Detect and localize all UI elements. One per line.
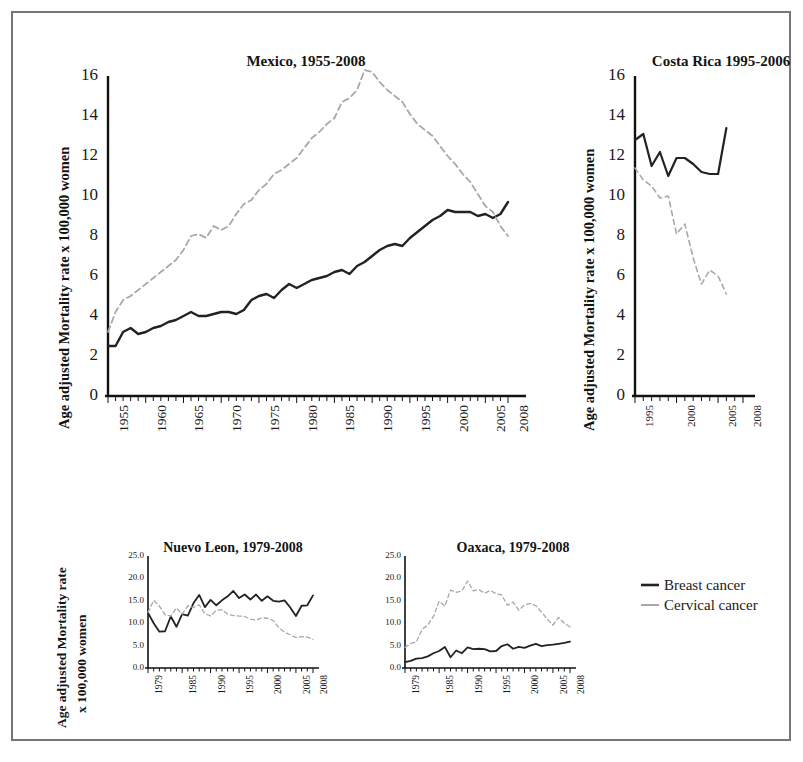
y-tick-label: 16 — [68, 65, 98, 85]
x-tick-label: 1970 — [229, 405, 245, 465]
chart-panel-mexico: Mexico, 1955-2008 Age adjusted Mortality… — [26, 31, 556, 491]
legend-label-cervical-cancer: Cervical cancer — [664, 597, 758, 614]
y-tick-label: 6 — [595, 265, 625, 285]
legend-label-breast-cancer: Breast cancer — [664, 577, 745, 594]
y-tick-label: 12 — [68, 145, 98, 165]
chart-title-oaxaca: Oaxaca, 1979-2008 — [418, 540, 608, 556]
y-tick-label: 25.0 — [116, 550, 144, 560]
x-tick-label: 1980 — [305, 405, 321, 465]
dashed-line-swatch-icon — [641, 600, 659, 610]
x-tick-label: 1990 — [474, 675, 484, 719]
x-tick-label: 2000 — [685, 405, 697, 460]
y-tick-label: 4 — [595, 305, 625, 325]
chart-panel-nuevo-leon: Nuevo Leon, 1979-2008 Age adjusted Morta… — [38, 528, 358, 743]
x-tick-label: 1979 — [154, 675, 164, 719]
x-tick-label: 2005 — [726, 405, 738, 460]
chart-title-nuevo-leon: Nuevo Leon, 1979-2008 — [133, 540, 333, 556]
y-tick-label: 2 — [68, 345, 98, 365]
x-tick-label: 2008 — [576, 675, 586, 719]
y-tick-label: 5.0 — [373, 640, 401, 650]
y-tick-label: 14 — [595, 105, 625, 125]
y-tick-label: 0 — [595, 385, 625, 405]
x-tick-label: 1990 — [380, 405, 396, 465]
x-tick-label: 2000 — [273, 675, 283, 719]
y-tick-label: 14 — [68, 105, 98, 125]
x-tick-label: 2008 — [516, 405, 532, 465]
y-tick-label: 16 — [595, 65, 625, 85]
y-tick-label: 20.0 — [116, 572, 144, 582]
y-tick-label: 15.0 — [116, 595, 144, 605]
x-tick-label: 1985 — [445, 675, 455, 719]
x-tick-label: 1995 — [418, 405, 434, 465]
y-tick-label: 10.0 — [116, 617, 144, 627]
y-tick-label: 8 — [68, 225, 98, 245]
x-tick-label: 2000 — [530, 675, 540, 719]
y-tick-label: 4 — [68, 305, 98, 325]
y-tick-label: 5.0 — [116, 640, 144, 650]
x-tick-label: 1985 — [188, 675, 198, 719]
x-tick-label: 1985 — [342, 405, 358, 465]
y-tick-label: 15.0 — [373, 595, 401, 605]
x-tick-label: 1955 — [116, 405, 132, 465]
figure-border: Mexico, 1955-2008 Age adjusted Mortality… — [11, 11, 791, 741]
x-tick-label: 1965 — [191, 405, 207, 465]
y-axis-label-nuevo-leon-line2: x 100,000 women — [74, 614, 90, 713]
x-tick-label: 2008 — [319, 675, 329, 719]
solid-line-swatch-icon — [641, 580, 659, 590]
y-tick-label: 2 — [595, 345, 625, 365]
y-tick-label: 0.0 — [116, 662, 144, 672]
x-tick-label: 1960 — [154, 405, 170, 465]
legend-item-breast-cancer: Breast cancer — [641, 575, 758, 595]
y-tick-label: 0.0 — [373, 662, 401, 672]
y-tick-label: 10.0 — [373, 617, 401, 627]
x-tick-label: 2000 — [456, 405, 472, 465]
x-tick-label: 1995 — [643, 405, 655, 460]
chart-panel-oaxaca: Oaxaca, 1979-2008 25.020.015.010.05.00.0… — [363, 528, 653, 743]
x-tick-label: 2005 — [302, 675, 312, 719]
x-tick-label: 2005 — [493, 405, 509, 465]
x-tick-label: 1975 — [267, 405, 283, 465]
x-tick-label: 2005 — [559, 675, 569, 719]
legend-item-cervical-cancer: Cervical cancer — [641, 595, 758, 615]
chart-title-mexico: Mexico, 1955-2008 — [176, 53, 436, 70]
x-tick-label: 1995 — [502, 675, 512, 719]
x-tick-label: 1979 — [411, 675, 421, 719]
y-axis-label-nuevo-leon-line1: Age adjusted Mortality rate — [54, 567, 70, 728]
y-tick-label: 25.0 — [373, 550, 401, 560]
x-tick-label: 1990 — [217, 675, 227, 719]
y-tick-label: 20.0 — [373, 572, 401, 582]
x-tick-label: 2008 — [751, 405, 763, 460]
chart-legend: Breast cancer Cervical cancer — [641, 575, 758, 615]
y-tick-label: 6 — [68, 265, 98, 285]
y-tick-label: 12 — [595, 145, 625, 165]
chart-panel-costa-rica: Costa Rica 1995-2006 Age adjusted Mortal… — [573, 31, 803, 491]
x-tick-label: 1995 — [245, 675, 255, 719]
y-tick-label: 0 — [68, 385, 98, 405]
y-tick-label: 10 — [595, 185, 625, 205]
y-tick-label: 8 — [595, 225, 625, 245]
y-tick-label: 10 — [68, 185, 98, 205]
chart-title-costa-rica: Costa Rica 1995-2006 — [621, 53, 803, 70]
